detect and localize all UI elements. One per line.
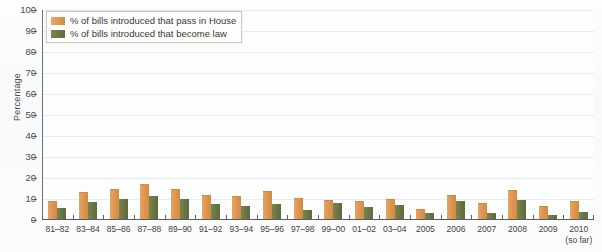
bar-group [349,10,380,220]
bar-become-law [517,200,526,220]
x-axis-label: 87–88 [134,224,165,246]
bar-become-law [180,199,189,220]
x-axis-label: 2007 [471,224,502,246]
x-axis-label: 99–00 [318,224,349,246]
bar-become-law [149,196,158,220]
bar-pass-in-house [570,201,579,220]
bar-pass-in-house [171,189,180,220]
legend-swatch-pass-in-house [51,17,65,25]
bar-pass-in-house [232,196,241,220]
bar-pass-in-house [478,203,487,220]
legend-label-become-law: % of bills introduced that become law [70,28,227,39]
legend-label-pass-in-house: % of bills introduced that pass in House [70,15,236,26]
bar-become-law [272,204,281,220]
y-tick-label: 30 [8,151,36,162]
x-axis-label: 93–94 [226,224,257,246]
chart-legend: % of bills introduced that pass in House… [46,11,242,43]
y-tick-label: 60 [8,88,36,99]
bar-group [257,10,288,220]
y-tick-label: 40 [8,130,36,141]
x-axis-label: 01–02 [349,224,380,246]
y-tick-label: 10 [8,193,36,204]
bar-group [471,10,502,220]
x-axis-label: 89–90 [165,224,196,246]
legend-swatch-become-law [51,30,65,38]
bar-become-law [395,205,404,220]
x-axis-label: 85–86 [103,224,134,246]
y-axis-ticks: 1009080706050403020100 [0,10,36,220]
x-axis-label: 95–96 [257,224,288,246]
x-axis-label: 2009 [533,224,564,246]
bar-pass-in-house [79,192,88,220]
y-tick-label: 20 [8,172,36,183]
y-tick-label: 0 [8,214,36,225]
bar-pass-in-house [539,206,548,220]
x-axis-label: 83–84 [73,224,104,246]
bar-pass-in-house [140,184,149,220]
bar-pass-in-house [355,201,364,220]
bar-group [563,10,594,220]
x-axis-label: 2005 [410,224,441,246]
bar-become-law [88,202,97,220]
bar-group [410,10,441,220]
bar-pass-in-house [324,200,333,220]
x-axis-sublabel: (so far) [563,235,594,246]
bar-group [318,10,349,220]
bar-pass-in-house [386,199,395,220]
bar-group [502,10,533,220]
bar-pass-in-house [48,201,57,220]
bar-pass-in-house [508,190,517,220]
y-tick-label: 90 [8,25,36,36]
y-tick-label: 70 [8,67,36,78]
y-tick-label: 50 [8,109,36,120]
y-tick-label: 100 [8,4,36,15]
x-axis-label: 81–82 [42,224,73,246]
bar-become-law [456,201,465,220]
legend-entry-become-law: % of bills introduced that become law [51,28,236,39]
bar-pass-in-house [202,195,211,220]
bar-group [379,10,410,220]
x-axis-line [42,219,594,220]
bar-become-law [211,204,220,220]
x-axis-labels: 81–8283–8485–8687–8889–9091–9293–9495–96… [42,224,594,246]
bar-chart: Percentage 1009080706050403020100 81–828… [0,0,602,252]
bar-become-law [119,199,128,220]
x-axis-label: 03–04 [379,224,410,246]
x-axis-label: 2006 [441,224,472,246]
y-tick-label: 80 [8,46,36,57]
bar-become-law [241,206,250,220]
bar-pass-in-house [110,189,119,220]
x-axis-label: 2008 [502,224,533,246]
x-axis-label: 97–98 [287,224,318,246]
bar-pass-in-house [294,198,303,220]
legend-entry-pass-in-house: % of bills introduced that pass in House [51,15,236,26]
x-axis-label: 91–92 [195,224,226,246]
bar-group [533,10,564,220]
bar-pass-in-house [263,191,272,220]
bar-group [441,10,472,220]
bar-pass-in-house [447,195,456,220]
bar-group [287,10,318,220]
x-axis-label: 2010(so far) [563,224,594,246]
bar-become-law [333,203,342,220]
